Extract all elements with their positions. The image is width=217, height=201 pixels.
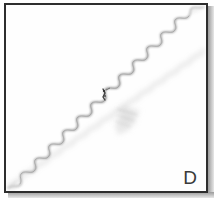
panel-label: D <box>183 168 197 187</box>
figure-panel: D <box>0 0 217 201</box>
panel-drop-shadow-right <box>208 6 214 198</box>
micrograph-image <box>6 5 206 191</box>
panel-border-frame: D <box>4 3 208 193</box>
micrograph-svg <box>6 5 206 191</box>
